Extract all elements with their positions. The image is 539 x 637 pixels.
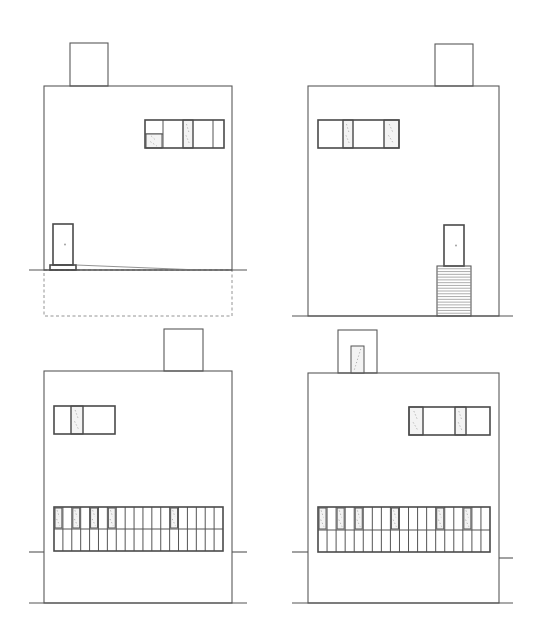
chimney [70, 43, 108, 86]
window [318, 120, 399, 148]
chimney [164, 329, 203, 371]
chimney [435, 44, 473, 86]
glazed-pane [337, 508, 344, 529]
strip-window [54, 507, 223, 551]
elevation-top-right [292, 44, 513, 316]
door-handle [64, 244, 66, 246]
door [444, 225, 464, 266]
door [53, 224, 73, 265]
glazed-pane [71, 406, 83, 434]
glazed-pane [55, 508, 62, 528]
glazed-pane [384, 120, 399, 148]
glazed-pane [171, 508, 178, 528]
building-outline [44, 86, 232, 270]
glazed-pane [108, 508, 115, 528]
entry-step [50, 265, 76, 270]
window [54, 406, 115, 434]
foundation-outline [44, 270, 232, 316]
glazed-pane [391, 508, 398, 529]
ramp-line [76, 265, 200, 270]
door-handle [455, 245, 457, 247]
glazed-pane [91, 508, 98, 528]
elevation-bottom-right [292, 330, 513, 603]
window-frame [54, 406, 115, 434]
glazed-pane [183, 120, 193, 148]
glazed-pane [355, 508, 362, 529]
strip-window [318, 507, 490, 552]
glazed-pane [409, 407, 423, 435]
glazed-pane [73, 508, 80, 528]
glazed-pane [146, 134, 162, 148]
window [145, 120, 224, 148]
window [409, 407, 490, 435]
elevation-top-left [29, 43, 247, 316]
glazed-pane [343, 120, 353, 148]
elevations-drawing [0, 0, 539, 637]
glazed-pane [464, 508, 471, 529]
glazed-pane [437, 508, 444, 529]
glazed-pane [455, 407, 466, 435]
glazed-pane [319, 508, 326, 529]
elevations-svg [0, 0, 539, 637]
elevation-bottom-left [29, 329, 247, 603]
